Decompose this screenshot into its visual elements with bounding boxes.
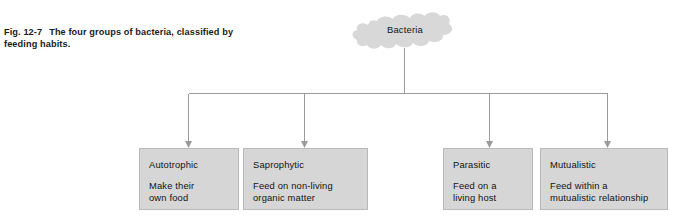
- bacteria-cloud-node: Bacteria: [348, 11, 462, 52]
- branch-box-mutualistic: Mutualistic Feed within a mutualistic re…: [540, 148, 668, 210]
- branch-title-parasitic: Parasitic: [453, 159, 490, 170]
- branch-description-parasitic: Feed on a living host: [453, 180, 497, 204]
- arrowhead-mutualistic: [604, 141, 611, 148]
- branch-description-saprophytic: Feed on non-living organic matter: [253, 180, 333, 204]
- arrowhead-parasitic: [486, 141, 493, 148]
- branch-description-autotrophic: Make their own food: [149, 180, 194, 204]
- arrowhead-saprophytic: [301, 141, 308, 148]
- branch-description-mutualistic: Feed within a mutualistic relationship: [550, 180, 648, 204]
- branch-box-autotrophic: Autotrophic Make their own food: [139, 148, 239, 210]
- figure-root: Fig. 12-7The four groups of bacteria, cl…: [0, 0, 676, 218]
- branch-box-parasitic: Parasitic Feed on a living host: [443, 148, 533, 210]
- branch-title-saprophytic: Saprophytic: [253, 159, 304, 170]
- branch-box-saprophytic: Saprophytic Feed on non-living organic m…: [243, 148, 368, 210]
- branch-title-mutualistic: Mutualistic: [550, 159, 596, 170]
- cloud-label: Bacteria: [348, 24, 462, 35]
- branch-title-autotrophic: Autotrophic: [149, 159, 198, 170]
- arrowhead-autotrophic: [185, 141, 192, 148]
